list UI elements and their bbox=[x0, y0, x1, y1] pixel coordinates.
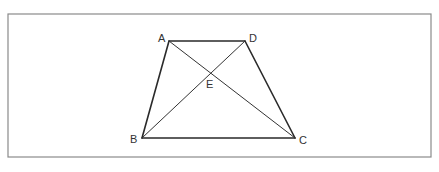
diagram-frame bbox=[8, 14, 431, 157]
label-e: E bbox=[206, 78, 213, 90]
label-b: B bbox=[130, 133, 137, 145]
trapezoid-diagram: A D E B C bbox=[0, 0, 439, 172]
label-a: A bbox=[158, 32, 166, 44]
label-d: D bbox=[249, 32, 257, 44]
label-c: C bbox=[299, 134, 307, 146]
